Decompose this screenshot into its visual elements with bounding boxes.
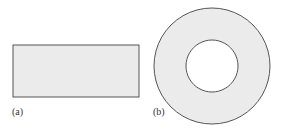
panel-b-annulus — [154, 8, 270, 124]
panel-a-label: (a) — [12, 106, 23, 117]
diagram-canvas — [0, 0, 282, 132]
panel-b-label: (b) — [153, 106, 165, 117]
panel-a-rectangle — [13, 45, 139, 97]
